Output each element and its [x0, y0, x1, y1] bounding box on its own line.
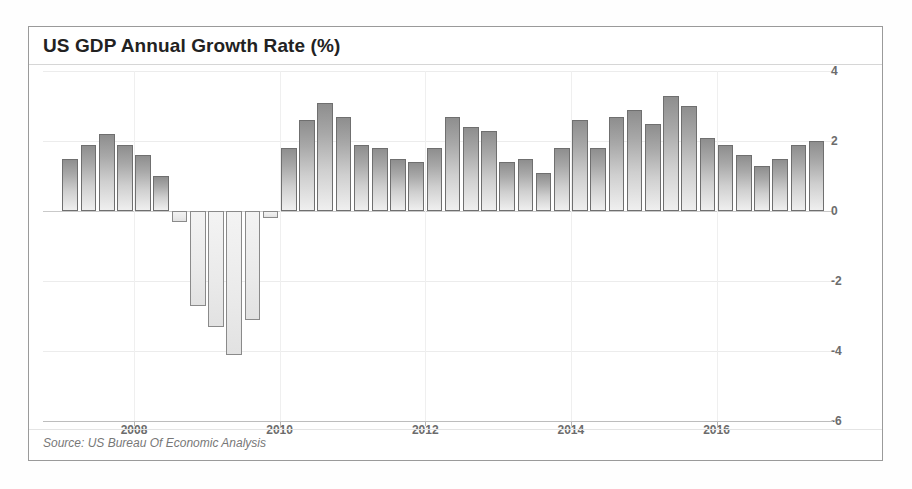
- bar[interactable]: [135, 155, 151, 211]
- bar[interactable]: [427, 148, 443, 211]
- x-axis-line: [43, 421, 833, 422]
- bar[interactable]: [463, 127, 479, 211]
- bar[interactable]: [354, 145, 370, 212]
- source-note: Source: US Bureau Of Economic Analysis: [43, 436, 266, 450]
- gridline-x-2012: [425, 71, 426, 421]
- x-axis-tick-label: 2012: [412, 423, 439, 437]
- bar[interactable]: [81, 145, 97, 212]
- gridline-y--2: [43, 281, 833, 282]
- bar[interactable]: [190, 211, 206, 306]
- bar[interactable]: [645, 124, 661, 212]
- y-axis-tick-label: -4: [831, 344, 857, 358]
- gridline-x-2010: [280, 71, 281, 421]
- bar[interactable]: [791, 145, 807, 212]
- page-title: US GDP Annual Growth Rate (%): [43, 35, 340, 57]
- bar[interactable]: [700, 138, 716, 212]
- bar[interactable]: [518, 159, 534, 212]
- bar[interactable]: [281, 148, 297, 211]
- bar[interactable]: [390, 159, 406, 212]
- bar[interactable]: [718, 145, 734, 212]
- gridline-x-2008: [134, 71, 135, 421]
- plot-area: 420-2-4-620082010201220142016: [43, 71, 855, 421]
- chart-card: US GDP Annual Growth Rate (%) 420-2-4-62…: [28, 26, 883, 461]
- bar[interactable]: [317, 103, 333, 212]
- bar[interactable]: [536, 173, 552, 212]
- bar[interactable]: [62, 159, 78, 212]
- bar[interactable]: [245, 211, 261, 320]
- bar[interactable]: [736, 155, 752, 211]
- bar[interactable]: [226, 211, 242, 355]
- bar[interactable]: [627, 110, 643, 212]
- y-axis-tick-label: 0: [831, 204, 857, 218]
- bar[interactable]: [208, 211, 224, 327]
- bar[interactable]: [590, 148, 606, 211]
- bar[interactable]: [481, 131, 497, 212]
- bar[interactable]: [372, 148, 388, 211]
- bar[interactable]: [681, 106, 697, 211]
- bar[interactable]: [263, 211, 279, 218]
- chart-title-bar: US GDP Annual Growth Rate (%): [29, 27, 882, 65]
- y-axis-tick-label: -6: [831, 414, 857, 428]
- bar[interactable]: [499, 162, 515, 211]
- y-axis-tick-label: 4: [831, 64, 857, 78]
- bar[interactable]: [445, 117, 461, 212]
- gridline-y-0: [43, 211, 833, 212]
- bar[interactable]: [772, 159, 788, 212]
- gridline-x-2016: [717, 71, 718, 421]
- gridline-y--4: [43, 351, 833, 352]
- bar[interactable]: [172, 211, 188, 222]
- bar[interactable]: [408, 162, 424, 211]
- bar[interactable]: [663, 96, 679, 212]
- screenshot-root: US GDP Annual Growth Rate (%) 420-2-4-62…: [0, 0, 912, 489]
- bar[interactable]: [99, 134, 115, 211]
- bar[interactable]: [572, 120, 588, 211]
- bar[interactable]: [336, 117, 352, 212]
- bar[interactable]: [809, 141, 825, 211]
- bar[interactable]: [153, 176, 169, 211]
- x-axis-tick-label: 2014: [558, 423, 585, 437]
- x-axis-tick-label: 2008: [121, 423, 148, 437]
- x-axis-tick-label: 2016: [703, 423, 730, 437]
- bar[interactable]: [299, 120, 315, 211]
- y-axis-tick-label: -2: [831, 274, 857, 288]
- bar[interactable]: [554, 148, 570, 211]
- bar[interactable]: [754, 166, 770, 212]
- footer-divider: [29, 429, 882, 430]
- bar[interactable]: [117, 145, 133, 212]
- gridline-y-4: [43, 71, 833, 72]
- y-axis-tick-label: 2: [831, 134, 857, 148]
- x-axis-tick-label: 2010: [266, 423, 293, 437]
- bar[interactable]: [609, 117, 625, 212]
